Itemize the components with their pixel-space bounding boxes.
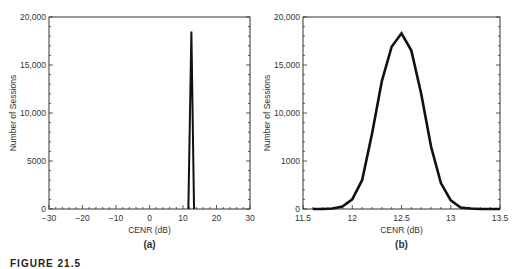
data-line: [188, 31, 194, 209]
y-tick-label: 10,000: [274, 108, 300, 118]
plot-frame: [303, 17, 500, 209]
y-tick-label: 20,000: [274, 12, 300, 22]
plot-frame: [49, 17, 250, 209]
x-tick-label: 12.5: [393, 213, 410, 223]
data-line: [313, 33, 500, 209]
y-tick-label: 10,000: [20, 108, 46, 118]
chart-panel-b: 11.51212.51313.50100010,00015,00020,000C…: [262, 12, 509, 250]
y-tick-label: 20,000: [20, 12, 46, 22]
y-tick-label: 15,000: [274, 60, 300, 70]
x-tick-label: −10: [109, 213, 124, 223]
y-tick-label: 0: [41, 204, 46, 214]
y-tick-label: 15,000: [20, 60, 46, 70]
x-tick-label: 20: [212, 213, 222, 223]
x-tick-label: 13.5: [492, 213, 509, 223]
x-tick-label: 0: [147, 213, 152, 223]
x-tick-label: 10: [178, 213, 188, 223]
y-axis-label: Number of Sessions: [8, 75, 18, 152]
x-tick-label: 30: [245, 213, 255, 223]
panel-label: (b): [395, 239, 408, 250]
x-axis-label: CENR (dB): [380, 225, 423, 235]
x-tick-label: −20: [75, 213, 90, 223]
figure-caption: FIGURE 21.5: [10, 258, 81, 269]
y-axis-label: Number of Sessions: [262, 75, 272, 152]
y-tick-label: 1000: [281, 156, 300, 166]
x-tick-label: −30: [42, 213, 57, 223]
x-axis-label: CENR (dB): [128, 225, 171, 235]
y-tick-label: 0: [295, 204, 300, 214]
x-tick-label: 11.5: [295, 213, 311, 223]
y-tick-label: 5000: [27, 156, 46, 166]
chart-panel-a: −30−20−1001020300500010,00015,00020,000C…: [8, 12, 255, 250]
x-tick-label: 12: [348, 213, 358, 223]
panel-label: (a): [143, 239, 155, 250]
x-tick-label: 13: [446, 213, 456, 223]
